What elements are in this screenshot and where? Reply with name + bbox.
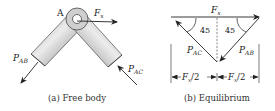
dim-left-label: Fx/2 xyxy=(181,72,199,83)
fx-label: Fx xyxy=(93,8,104,19)
dim-right-label: Fx/2 xyxy=(227,72,245,83)
equilibrium-triangle: Fx 45 45 PAC PAB xyxy=(171,5,259,62)
caption-equilibrium: (b) Equilibrium xyxy=(184,93,250,103)
angle-arc-right xyxy=(237,18,246,32)
joint-a-label: A xyxy=(56,8,64,18)
eq-pac-label: PAC xyxy=(186,45,202,56)
pab-label: PAB xyxy=(12,53,28,64)
pac-label: PAC xyxy=(127,64,143,75)
free-body-diagram: A Fx PAB PAC xyxy=(12,8,143,85)
force-pab-arrow xyxy=(21,62,38,83)
joint-a-hole xyxy=(73,15,82,24)
angle-left-label: 45 xyxy=(200,26,210,35)
angle-arc-left xyxy=(187,18,196,32)
caption-free-body: (a) Free body xyxy=(48,93,106,103)
angle-right-label: 45 xyxy=(225,26,235,35)
eq-fx-label: Fx xyxy=(210,5,221,16)
eq-pab-label: PAB xyxy=(238,45,254,56)
